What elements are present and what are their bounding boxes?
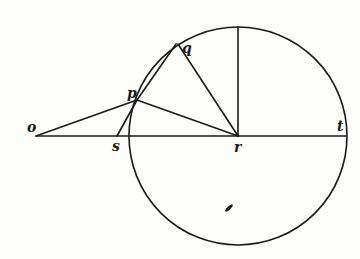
geometry-diagram: o s r t p q [0,0,360,259]
line-o-p [36,100,137,136]
line-q-r [178,44,238,136]
line-p-r [137,100,238,136]
label-s: s [112,138,120,154]
diagram-canvas: o s r t p q [0,0,360,259]
label-t: t [337,118,344,134]
label-p: p [127,85,137,101]
chord-p-q [137,44,176,100]
label-q: q [182,40,192,56]
ink-smudge [224,203,233,212]
label-o: o [27,119,36,135]
label-r: r [234,139,243,155]
